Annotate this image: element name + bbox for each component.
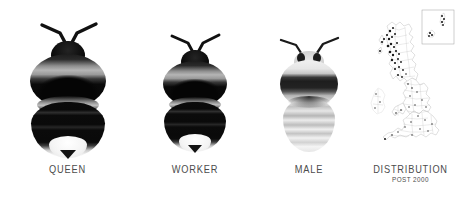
distribution-map [365,6,457,158]
caption-distribution: DISTRIBUTION POST 2000 [363,163,458,185]
caption-male: MALE [255,163,363,175]
panel-queen: QUEEN [0,0,135,202]
uk-map-svg [365,6,457,158]
bee-tail-notch [188,145,202,153]
bumblebee-caste-identification-figure: QUEEN WORKER [0,0,458,202]
bee-male-illustration [274,32,344,152]
caption-queen-label: QUEEN [8,163,127,175]
bee-abdomen-shoulder-shadow [288,96,330,108]
caption-worker: WORKER [135,163,255,175]
panel-distribution: DISTRIBUTION POST 2000 [363,0,458,202]
panel-worker: WORKER [135,0,255,202]
caption-male-label: MALE [261,163,356,175]
caption-distribution-label: DISTRIBUTION [369,163,453,175]
bee-queen-illustration [20,8,116,158]
bee-worker-illustration [155,22,235,152]
caption-worker-label: WORKER [142,163,248,175]
panel-male: MALE [255,0,363,202]
map-inset-northern-isles [422,10,454,44]
caption-queen: QUEEN [0,163,135,175]
caption-distribution-sublabel: POST 2000 [369,175,453,185]
bee-tail-notch [60,150,76,159]
